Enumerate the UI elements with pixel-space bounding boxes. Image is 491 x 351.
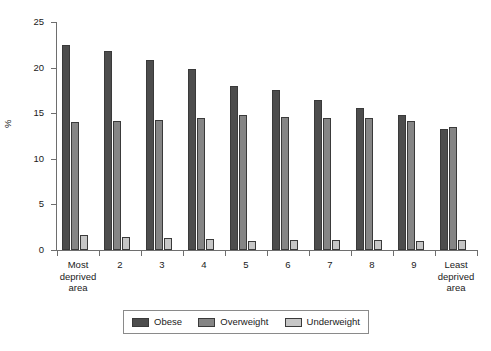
bar-group bbox=[393, 22, 435, 250]
legend-label-underweight: Underweight bbox=[307, 317, 360, 327]
bar-obese bbox=[230, 86, 238, 250]
bar-group bbox=[351, 22, 393, 250]
x-axis-separator bbox=[141, 250, 142, 256]
y-axis-tick-label: 25 bbox=[0, 17, 44, 27]
bar-obese bbox=[398, 115, 406, 250]
bar-underweight bbox=[122, 237, 130, 250]
legend-item-obese[interactable]: Obese bbox=[132, 317, 182, 327]
legend-item-overweight[interactable]: Overweight bbox=[198, 317, 268, 327]
bar-group bbox=[57, 22, 99, 250]
y-axis-tick-label: 20 bbox=[0, 63, 44, 73]
x-axis-separator bbox=[477, 250, 478, 256]
bar-overweight bbox=[239, 115, 247, 250]
bar-group bbox=[225, 22, 267, 250]
bar-obese bbox=[314, 100, 322, 250]
bar-group bbox=[99, 22, 141, 250]
legend-swatch-underweight bbox=[285, 318, 302, 327]
bar-underweight bbox=[332, 240, 340, 250]
chart-legend: ObeseOverweightUnderweight bbox=[123, 310, 369, 334]
bar-obese bbox=[440, 129, 448, 250]
bar-obese bbox=[62, 45, 70, 250]
x-axis-separator bbox=[435, 250, 436, 256]
bar-overweight bbox=[323, 118, 331, 250]
bar-group bbox=[309, 22, 351, 250]
y-axis-tick-label: 15 bbox=[0, 108, 44, 118]
bar-underweight bbox=[248, 241, 256, 250]
bar-obese bbox=[146, 60, 154, 250]
bar-underweight bbox=[374, 240, 382, 250]
bar-group bbox=[267, 22, 309, 250]
legend-item-underweight[interactable]: Underweight bbox=[285, 317, 360, 327]
bar-underweight bbox=[164, 238, 172, 250]
legend-label-overweight: Overweight bbox=[220, 317, 268, 327]
bar-obese bbox=[272, 90, 280, 251]
x-axis-label-line: area bbox=[51, 282, 105, 294]
bar-group bbox=[183, 22, 225, 250]
bar-overweight bbox=[281, 117, 289, 250]
bar-overweight bbox=[365, 118, 373, 250]
bar-chart: % 0510152025 Mostdeprivedarea23456789Lea… bbox=[0, 0, 491, 351]
bar-overweight bbox=[407, 121, 415, 250]
legend-swatch-overweight bbox=[198, 318, 215, 327]
x-axis-separator bbox=[267, 250, 268, 256]
bar-overweight bbox=[449, 127, 457, 250]
bar-underweight bbox=[290, 240, 298, 250]
x-axis-separator bbox=[309, 250, 310, 256]
bar-obese bbox=[104, 51, 112, 250]
x-axis-label-line: Least bbox=[429, 259, 483, 271]
x-axis-label-line: deprived bbox=[51, 271, 105, 283]
y-axis-tick-label: 0 bbox=[0, 245, 44, 255]
x-axis-separator bbox=[57, 250, 58, 256]
x-axis-label-line: deprived bbox=[429, 271, 483, 283]
x-axis-label-line: area bbox=[429, 282, 483, 294]
y-axis-title: % bbox=[2, 120, 13, 128]
bar-underweight bbox=[416, 241, 424, 250]
bar-underweight bbox=[80, 235, 88, 251]
plot-area bbox=[57, 22, 477, 250]
x-axis-separator bbox=[393, 250, 394, 256]
x-axis-separator bbox=[183, 250, 184, 256]
y-axis-tick-label: 10 bbox=[0, 154, 44, 164]
x-axis-separator bbox=[99, 250, 100, 256]
x-axis-separator bbox=[351, 250, 352, 256]
legend-label-obese: Obese bbox=[154, 317, 182, 327]
x-axis-separator bbox=[225, 250, 226, 256]
bar-overweight bbox=[113, 121, 121, 251]
bar-overweight bbox=[155, 120, 163, 250]
bar-underweight bbox=[206, 239, 214, 250]
bar-underweight bbox=[458, 240, 466, 250]
legend-swatch-obese bbox=[132, 318, 149, 327]
bar-overweight bbox=[197, 118, 205, 250]
x-axis-label: Leastdeprivedarea bbox=[429, 259, 483, 294]
bar-group bbox=[435, 22, 477, 250]
bar-group bbox=[141, 22, 183, 250]
bar-overweight bbox=[71, 122, 79, 250]
bar-obese bbox=[356, 108, 364, 250]
y-axis-tick-label: 5 bbox=[0, 199, 44, 209]
bar-obese bbox=[188, 69, 196, 250]
